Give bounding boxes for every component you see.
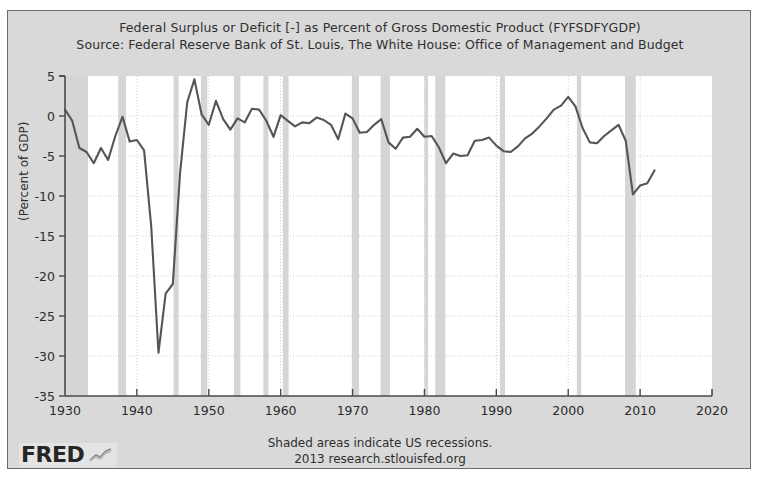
- chart-footer: Shaded areas indicate US recessions. 201…: [8, 435, 752, 467]
- chart-panel: Federal Surplus or Deficit [-] as Percen…: [7, 10, 751, 469]
- fred-chart-image: Federal Surplus or Deficit [-] as Percen…: [0, 0, 758, 477]
- source-url: 2013 research.stlouisfed.org: [8, 451, 752, 467]
- y-axis-label: (Percent of GDP): [17, 101, 31, 221]
- fred-logo[interactable]: FRED: [19, 443, 117, 467]
- chart-title-block: Federal Surplus or Deficit [-] as Percen…: [8, 19, 752, 53]
- recession-note: Shaded areas indicate US recessions.: [8, 435, 752, 451]
- fred-wordmark: FRED: [21, 444, 84, 466]
- chart-subtitle-source: Source: Federal Reserve Bank of St. Loui…: [8, 36, 752, 53]
- line-chart-glyph: [88, 447, 114, 463]
- chart-title: Federal Surplus or Deficit [-] as Percen…: [8, 19, 752, 36]
